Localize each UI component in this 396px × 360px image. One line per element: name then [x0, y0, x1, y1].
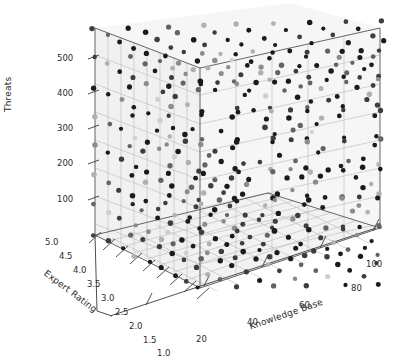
data-point: [376, 77, 380, 81]
data-point: [290, 216, 295, 221]
data-point: [173, 213, 177, 217]
data-point: [159, 265, 164, 270]
data-point: [243, 93, 247, 97]
data-point: [284, 175, 289, 180]
data-point: [326, 167, 331, 172]
data-point: [182, 258, 187, 263]
data-point: [335, 94, 340, 99]
data-point: [169, 75, 174, 80]
data-point: [207, 153, 212, 158]
data-point: [233, 21, 238, 26]
data-point: [193, 204, 198, 209]
data-point: [236, 170, 241, 175]
data-point: [163, 54, 168, 59]
data-point: [323, 225, 328, 230]
data-point: [92, 114, 97, 119]
yaxis-tick-label: 4.0: [73, 265, 87, 275]
data-point: [108, 122, 113, 127]
data-point: [270, 140, 275, 145]
data-point: [234, 81, 239, 86]
xaxis-tick-label: 20: [196, 334, 207, 344]
data-point: [297, 35, 302, 40]
data-point: [275, 70, 280, 75]
data-point: [282, 88, 286, 92]
data-point: [213, 236, 218, 241]
data-point: [131, 105, 136, 110]
data-point: [155, 215, 160, 220]
data-point: [146, 229, 151, 234]
data-point: [156, 207, 160, 211]
data-point: [167, 163, 172, 168]
data-point: [218, 277, 223, 282]
data-point: [92, 142, 98, 148]
data-point: [166, 24, 171, 29]
data-point: [320, 205, 325, 210]
data-point: [302, 253, 308, 259]
data-point: [182, 50, 186, 54]
data-point: [305, 109, 310, 114]
data-point: [128, 232, 133, 237]
data-point: [128, 54, 133, 59]
data-point: [117, 69, 122, 74]
data-point: [120, 97, 125, 102]
data-point: [361, 156, 366, 161]
xaxis-tick-label: 40: [247, 317, 258, 327]
data-point: [91, 202, 96, 207]
data-point: [334, 63, 339, 68]
data-point: [267, 254, 273, 260]
data-point: [233, 255, 238, 260]
data-point: [310, 130, 314, 134]
data-point: [377, 48, 381, 52]
data-point: [131, 254, 136, 259]
data-point: [313, 268, 318, 273]
data-point: [294, 69, 299, 74]
data-point: [168, 45, 173, 50]
data-point: [318, 173, 323, 178]
data-point: [266, 262, 270, 266]
data-point: [362, 67, 366, 71]
data-point: [183, 72, 187, 76]
data-point: [341, 108, 345, 112]
data-point: [146, 111, 150, 115]
data-point: [293, 246, 298, 251]
data-point: [175, 30, 180, 35]
data-point: [258, 160, 263, 165]
data-point: [169, 251, 175, 257]
data-point: [286, 79, 291, 84]
data-point: [241, 161, 246, 166]
data-point: [121, 246, 125, 250]
data-point: [157, 147, 161, 151]
data-point: [226, 65, 230, 69]
data-point: [219, 129, 224, 134]
data-point: [229, 263, 234, 268]
data-point: [318, 235, 323, 240]
data-point: [374, 134, 378, 138]
data-point: [314, 63, 319, 68]
data-point: [201, 171, 206, 176]
data-point: [240, 222, 245, 227]
xaxis-tick-label: 100: [366, 259, 382, 269]
data-point: [89, 26, 94, 31]
data-point: [195, 58, 200, 63]
data-point: [219, 249, 225, 255]
data-point: [166, 171, 171, 176]
data-point: [309, 41, 313, 45]
data-point: [277, 153, 282, 158]
data-point: [236, 110, 241, 115]
data-point: [290, 188, 294, 192]
data-point: [235, 106, 240, 111]
data-point: [363, 246, 367, 250]
yaxis-tick-label: 2.5: [115, 307, 129, 317]
data-point: [354, 85, 359, 90]
data-point: [167, 114, 171, 118]
data-point: [234, 284, 239, 289]
data-point: [357, 195, 362, 200]
data-point: [335, 262, 340, 267]
data-point: [106, 33, 110, 37]
data-point: [244, 269, 249, 274]
data-point: [213, 88, 217, 92]
data-point: [274, 250, 279, 255]
data-point: [298, 123, 303, 128]
data-point: [227, 204, 232, 209]
data-point: [173, 94, 178, 99]
